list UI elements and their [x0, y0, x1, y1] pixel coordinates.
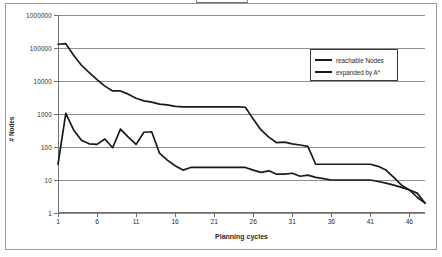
legend-swatch-reachable-nodes — [315, 59, 332, 61]
title-clipped-marker — [196, 0, 248, 3]
legend-label-expanded-by-astar: expanded by A* — [336, 69, 380, 76]
y-tick-label-10: 10 — [45, 177, 52, 184]
x-tick-label-31: 31 — [289, 218, 296, 225]
x-tick-21 — [214, 213, 215, 217]
x-tick-46 — [409, 213, 410, 217]
y-tick-label-100: 100 — [41, 144, 52, 151]
x-tick-26 — [253, 213, 254, 217]
y-axis-title: # Nodes — [8, 116, 15, 141]
y-tick-label-100000: 100000 — [30, 45, 52, 52]
y-tick-label-1000: 1000 — [37, 111, 52, 118]
series-line-expanded-by-a — [58, 113, 425, 203]
x-tick-6 — [97, 213, 98, 217]
legend-item-expanded-by-astar: expanded by A* — [315, 66, 393, 78]
x-tick-31 — [292, 213, 293, 217]
y-tick-label-1: 1 — [48, 210, 52, 217]
plot-area: 1101001000100001000001000000161116212631… — [58, 15, 425, 213]
y-tick-label-1000000: 1000000 — [26, 12, 52, 19]
x-tick-11 — [136, 213, 137, 217]
x-tick-label-46: 46 — [406, 218, 413, 225]
x-tick-label-6: 6 — [95, 218, 99, 225]
x-tick-label-1: 1 — [56, 218, 60, 225]
x-tick-label-11: 11 — [133, 218, 140, 225]
x-tick-41 — [370, 213, 371, 217]
x-tick-label-21: 21 — [210, 218, 217, 225]
legend-label-reachable-nodes: reachable Nodes — [336, 57, 384, 64]
x-tick-label-26: 26 — [250, 218, 257, 225]
x-tick-label-16: 16 — [171, 218, 178, 225]
y-tick-label-10000: 10000 — [33, 78, 52, 85]
x-tick-1 — [58, 213, 59, 217]
legend-item-reachable-nodes: reachable Nodes — [315, 54, 393, 66]
chart-container: # Nodes Planning cycles 1101001000100001… — [0, 0, 442, 257]
legend-swatch-expanded-by-astar — [315, 71, 332, 73]
x-tick-label-36: 36 — [328, 218, 335, 225]
series-lines — [58, 15, 425, 213]
chart-legend: reachable Nodes expanded by A* — [310, 49, 398, 81]
x-tick-36 — [331, 213, 332, 217]
x-tick-label-41: 41 — [367, 218, 374, 225]
x-axis-title: Planning cycles — [58, 233, 425, 240]
x-tick-16 — [175, 213, 176, 217]
